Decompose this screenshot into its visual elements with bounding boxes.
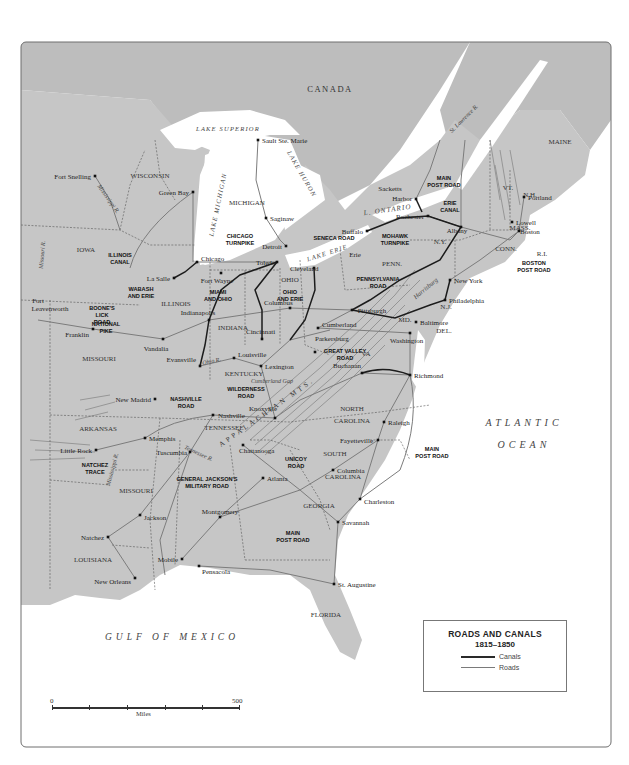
city-marker-icon (261, 338, 264, 341)
city-label: Sacketts (378, 185, 402, 193)
city-label: Boston (520, 228, 540, 236)
city-label: Portland (528, 194, 552, 202)
route-label: BOSTON (522, 260, 546, 266)
city-label: Pensacola (202, 568, 231, 576)
state-label: LOUISIANA (74, 556, 112, 564)
state-label: CAROLINA (334, 417, 370, 425)
route-label: MIAMI (210, 289, 227, 295)
state-label: DEL. (436, 327, 452, 335)
city-label: Fort (32, 297, 44, 305)
city-marker-icon (332, 469, 335, 472)
city-marker-icon (94, 175, 97, 178)
route-label: NATIONAL (92, 321, 121, 327)
city-marker-icon (192, 191, 195, 194)
city-marker-icon (361, 372, 364, 375)
city-label: Fayetteville (340, 437, 373, 445)
city-marker-icon (212, 414, 215, 417)
city-marker-icon (409, 374, 412, 377)
route-label: UNICOY (285, 456, 307, 462)
city-marker-icon (242, 444, 245, 447)
city-marker-icon (162, 338, 165, 341)
route-label: GREAT VALLEY (324, 348, 367, 354)
city-marker-icon (154, 398, 157, 401)
city-label: Harbor (392, 195, 412, 203)
city-label: Fort Snelling (54, 173, 91, 181)
city-label: Atlanta (267, 475, 288, 483)
city-label: Natchez (81, 534, 104, 542)
scale-start: 0 (50, 697, 54, 705)
water-body-label: ATLANTIC (484, 417, 562, 428)
legend-item-roads: Roads (424, 664, 566, 671)
city-label: Saginaw (270, 215, 295, 223)
city-label: Cumberland (322, 321, 357, 329)
city-marker-icon (219, 516, 222, 519)
route-label: AND ERIE (128, 293, 155, 299)
state-label: INDIANA (218, 324, 248, 332)
city-label: Baltimore (420, 319, 448, 327)
city-label: Louisville (238, 351, 266, 359)
city-label: New York (454, 277, 483, 285)
route-label: POST ROAD (276, 537, 309, 543)
route-label: ERIE (443, 200, 456, 206)
legend-years: 1815–1850 (424, 640, 566, 649)
scale-line (52, 707, 240, 709)
state-label: MICHIGAN (229, 199, 265, 207)
state-label: FLORIDA (311, 611, 341, 619)
city-label: Erie (349, 251, 361, 259)
scale-bar: 0 500 Miles (50, 697, 240, 717)
route-label: POST ROAD (427, 182, 460, 188)
city-label: Pittsburgh (358, 307, 387, 315)
state-label: MD. (398, 316, 411, 324)
route-label: AND ERIE (277, 296, 304, 302)
route-label: CANAL (110, 259, 130, 265)
city-marker-icon (383, 421, 386, 424)
city-label: Sault Ste. Marie (262, 137, 307, 145)
city-marker-icon (199, 365, 202, 368)
city-label: Chicago (201, 255, 225, 263)
city-marker-icon (511, 221, 514, 224)
state-label: MAINE (549, 138, 572, 146)
city-marker-icon (107, 536, 110, 539)
city-marker-icon (257, 139, 260, 142)
route-label: MILITARY ROAD (185, 483, 229, 489)
city-label: Vandalia (144, 345, 169, 353)
city-marker-icon (366, 230, 369, 233)
route-label: MAIN (425, 446, 439, 452)
city-marker-icon (274, 417, 277, 420)
legend-item-canals: Canals (424, 653, 566, 660)
city-marker-icon (92, 328, 95, 331)
canal-line-swatch (461, 656, 495, 658)
city-label: Lowell (516, 219, 536, 227)
city-label: Green Bay (159, 189, 190, 197)
city-marker-icon (173, 277, 176, 280)
city-label: Fort Wayne (201, 277, 234, 285)
legend: ROADS AND CANALS 1815–1850 Canals Roads (423, 620, 567, 692)
route-label: MOHAWK (382, 233, 408, 239)
city-marker-icon (262, 477, 265, 480)
city-label: Toledo (256, 259, 276, 267)
city-marker-icon (139, 514, 142, 517)
route-label: MAIN (286, 530, 300, 536)
state-label: CONN. (495, 245, 517, 253)
route-label: POST ROAD (415, 453, 448, 459)
city-label: Washington (390, 337, 424, 345)
state-label: ILLINOIS (161, 300, 191, 308)
route-label: ROAD (288, 463, 304, 469)
water-body-label: OCEAN (498, 439, 551, 450)
scale-tick (89, 705, 90, 710)
legend-title: ROADS AND CANALS (424, 629, 566, 639)
river-label: Cumberland Gap (251, 378, 293, 384)
city-label: Little Rock (60, 447, 92, 455)
scale-tick (239, 705, 240, 710)
city-marker-icon (359, 498, 362, 501)
city-marker-icon (427, 215, 430, 218)
city-marker-icon (333, 583, 336, 586)
state-label: MISSOURI (82, 355, 116, 363)
city-marker-icon (95, 449, 98, 452)
city-label: Philadelphia (449, 297, 485, 305)
city-marker-icon (285, 245, 288, 248)
city-marker-icon (449, 279, 452, 282)
city-label: Indianapolis (181, 309, 216, 317)
state-label: PENN. (382, 260, 402, 268)
city-label: New Orleans (94, 578, 131, 586)
